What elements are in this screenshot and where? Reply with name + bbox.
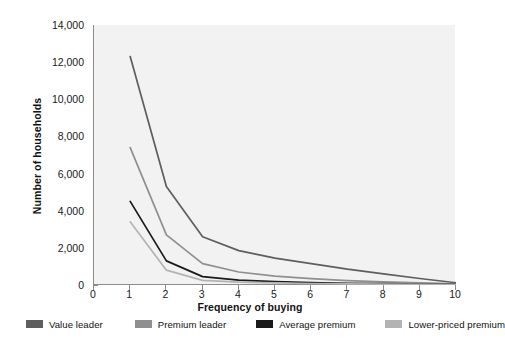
legend-item: Average premium: [256, 319, 355, 330]
legend-label: Value leader: [49, 319, 103, 330]
y-axis-tick-label: 4,000: [32, 205, 84, 217]
x-axis-tick-label: 6: [298, 288, 322, 300]
x-axis-tick-label: 2: [153, 288, 177, 300]
x-axis-tick-label: 4: [226, 288, 250, 300]
legend-item: Value leader: [26, 319, 103, 330]
series-line: [130, 222, 456, 285]
legend-label: Premium leader: [158, 319, 226, 330]
y-axis-tick-label: 2,000: [32, 242, 84, 254]
legend-item: Premium leader: [135, 319, 226, 330]
x-axis-tick-label: 3: [190, 288, 214, 300]
series-line: [130, 57, 456, 283]
x-axis-tick-label: 0: [81, 288, 105, 300]
legend-swatch: [385, 320, 402, 328]
legend-label: Lower-priced premium: [408, 319, 504, 330]
x-axis-title: Frequency of buying: [0, 301, 500, 313]
y-axis-title: Number of households: [31, 61, 43, 251]
series-line: [130, 148, 456, 284]
legend-label: Average premium: [279, 319, 355, 330]
x-axis-tick-label: 5: [262, 288, 286, 300]
x-axis-tick-label: 10: [443, 288, 467, 300]
y-axis-tick-label: 8,000: [32, 130, 84, 142]
legend-swatch: [256, 320, 273, 328]
legend-swatch: [135, 320, 152, 328]
legend-item: Lower-priced premium: [385, 319, 504, 330]
legend-swatch: [26, 320, 43, 328]
series-lines: [94, 25, 456, 285]
series-line: [130, 201, 456, 284]
y-axis-tick-label: 6,000: [32, 168, 84, 180]
x-axis-tick-label: 7: [334, 288, 358, 300]
y-axis-tick-label: 12,000: [32, 56, 84, 68]
y-axis-tick-label: 10,000: [32, 93, 84, 105]
plot-area: [93, 25, 455, 285]
x-axis-tick-label: 1: [117, 288, 141, 300]
y-axis-tick-label: 14,000: [32, 19, 84, 31]
chart-legend: Value leaderPremium leaderAverage premiu…: [26, 316, 476, 332]
x-axis-tick-label: 9: [407, 288, 431, 300]
x-axis-tick-label: 8: [371, 288, 395, 300]
y-axis-tick-label: 0: [32, 279, 84, 291]
